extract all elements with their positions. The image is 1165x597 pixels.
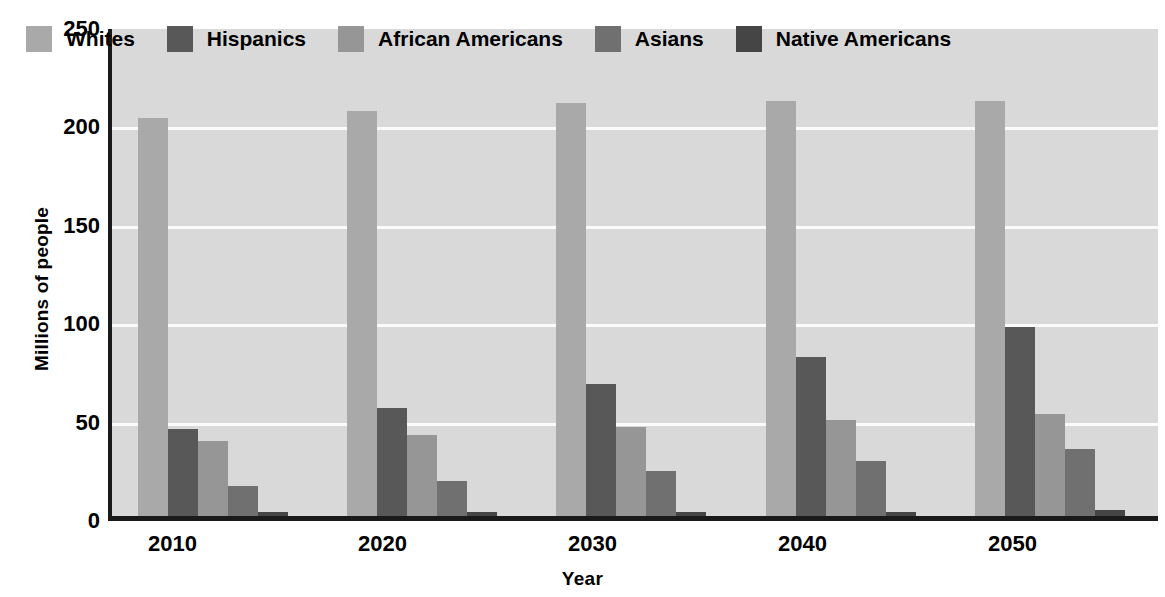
y-tick-label: 100: [38, 311, 100, 337]
bar[interactable]: [796, 357, 826, 516]
bar[interactable]: [1065, 449, 1095, 516]
legend-swatch-icon: [736, 26, 762, 52]
bar[interactable]: [198, 441, 228, 516]
bar[interactable]: [1035, 414, 1065, 516]
x-tick-label: 2040: [742, 531, 952, 557]
legend-item[interactable]: Hispanics: [167, 26, 306, 52]
y-tick-label: 50: [38, 410, 100, 436]
legend-label: Asians: [635, 27, 704, 51]
legend-swatch-icon: [167, 26, 193, 52]
plot-area: [108, 29, 1158, 521]
bar[interactable]: [1095, 510, 1125, 516]
x-tick-label: 2030: [532, 531, 742, 557]
x-tick-label: 2050: [952, 531, 1162, 557]
legend-swatch-icon: [26, 26, 52, 52]
y-tick-label: 200: [38, 114, 100, 140]
bar[interactable]: [377, 408, 407, 516]
bar[interactable]: [766, 101, 796, 516]
bar[interactable]: [467, 512, 497, 516]
legend-swatch-icon: [338, 26, 364, 52]
legend-item[interactable]: Whites: [26, 26, 135, 52]
chart-page: Millions of people 050100150200250 White…: [0, 0, 1165, 597]
bar[interactable]: [826, 420, 856, 516]
legend-item[interactable]: Asians: [595, 26, 704, 52]
bar[interactable]: [258, 512, 288, 516]
bar[interactable]: [228, 486, 258, 516]
bar-groups: [112, 29, 1158, 516]
legend-label: Whites: [66, 27, 135, 51]
bar[interactable]: [347, 111, 377, 516]
x-axis-title: Year: [0, 568, 1165, 590]
bar[interactable]: [856, 461, 886, 516]
bar[interactable]: [556, 103, 586, 516]
bar[interactable]: [1005, 327, 1035, 516]
legend-label: Hispanics: [207, 27, 306, 51]
x-tick-label: 2020: [322, 531, 532, 557]
bar[interactable]: [138, 118, 168, 516]
bar-group: [740, 29, 949, 516]
bar[interactable]: [646, 471, 676, 516]
bar-group: [949, 29, 1158, 516]
y-tick-label: 150: [38, 213, 100, 239]
y-tick-label: 0: [38, 508, 100, 534]
legend-item[interactable]: Native Americans: [736, 26, 951, 52]
bar[interactable]: [407, 435, 437, 516]
legend-swatch-icon: [595, 26, 621, 52]
bar[interactable]: [975, 101, 1005, 516]
legend-label: Native Americans: [776, 27, 951, 51]
legend-label: African Americans: [378, 27, 563, 51]
bar[interactable]: [616, 427, 646, 516]
bar-group: [112, 29, 321, 516]
bar[interactable]: [437, 481, 467, 516]
y-axis-ticks: 050100150200250: [28, 0, 100, 597]
chart-legend: WhitesHispanicsAfrican AmericansAsiansNa…: [26, 26, 983, 52]
x-axis-ticks: 20102020203020402050: [112, 531, 1162, 557]
bar-group: [530, 29, 739, 516]
bar[interactable]: [168, 429, 198, 516]
bar[interactable]: [676, 512, 706, 516]
bar[interactable]: [886, 512, 916, 516]
x-tick-label: 2010: [112, 531, 322, 557]
bar[interactable]: [586, 384, 616, 516]
legend-item[interactable]: African Americans: [338, 26, 563, 52]
bar-group: [321, 29, 530, 516]
